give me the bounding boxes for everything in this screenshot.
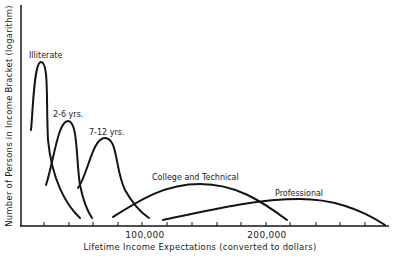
- label-2-6-yrs: 2-6 yrs.: [53, 110, 83, 119]
- curve-7-12-yrs: [78, 138, 149, 218]
- label-illiterate: Illiterate: [29, 51, 62, 60]
- chart: 100,000 200,000 Lifetime Income Expectat…: [0, 0, 394, 258]
- curve-illiterate: [31, 62, 80, 218]
- x-axis-label: Lifetime Income Expectations (converted …: [84, 242, 317, 252]
- label-professional: Professional: [275, 189, 323, 198]
- label-college-technical: College and Technical: [152, 173, 239, 182]
- label-7-12-yrs: 7-12 yrs.: [89, 128, 124, 137]
- x-tick-label-100000: 100,000: [125, 230, 164, 240]
- x-tick-label-200000: 200,000: [247, 230, 286, 240]
- y-axis-label: Number of Persons in Income Bracket (log…: [4, 5, 14, 227]
- curve-professional: [163, 199, 385, 225]
